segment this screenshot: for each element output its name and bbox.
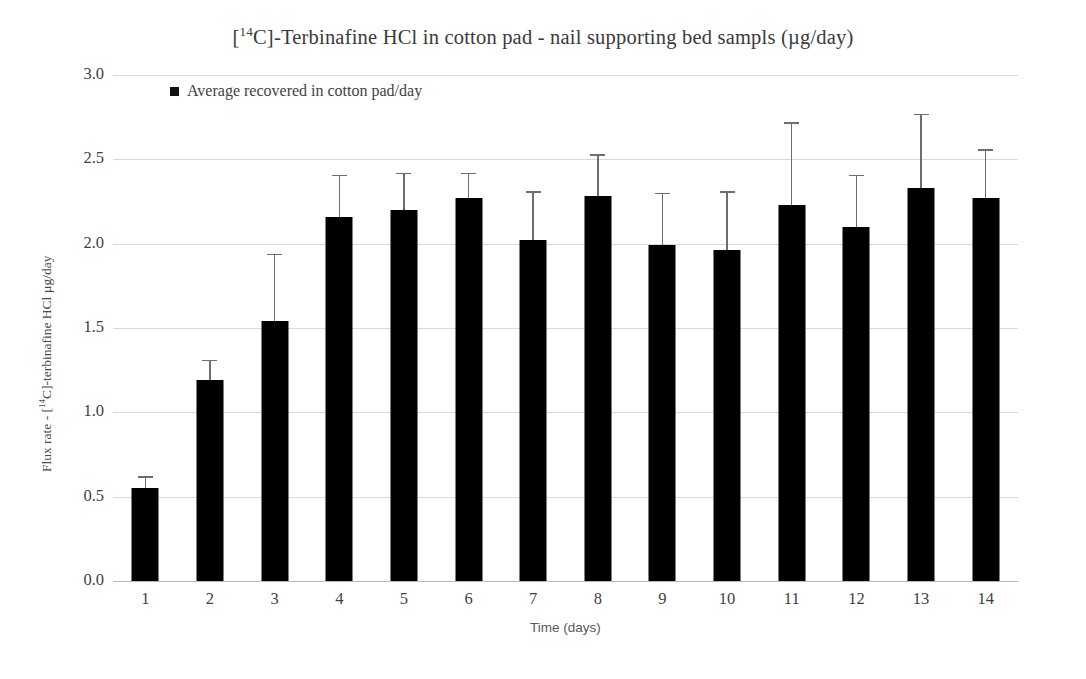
bar[interactable] (196, 380, 223, 581)
bar[interactable] (843, 227, 870, 581)
plot-area: 1234567891011121314 (113, 75, 1018, 582)
error-bar (662, 193, 663, 245)
bar[interactable] (455, 198, 482, 581)
x-axis-tick-label: 6 (439, 589, 499, 609)
bar[interactable] (390, 210, 417, 581)
bar-group[interactable] (178, 75, 243, 582)
y-axis-title-prefix: Flux rate - [ (39, 408, 54, 472)
x-axis-tick-label: 10 (697, 589, 757, 609)
x-axis-tick-label: 5 (374, 589, 434, 609)
error-bar-cap (655, 193, 670, 194)
bar[interactable] (520, 240, 547, 581)
y-axis-tick-label: 2.5 (58, 150, 104, 167)
bar-group[interactable] (630, 75, 695, 582)
error-bar-cap (332, 175, 347, 176)
bar[interactable] (261, 321, 288, 581)
x-axis-tick-label: 12 (826, 589, 886, 609)
bar[interactable] (649, 245, 676, 581)
bar-group[interactable] (242, 75, 307, 582)
chart-title-superscript: 14 (239, 24, 253, 39)
x-axis-tick-label: 4 (309, 589, 369, 609)
x-axis-tick-label: 9 (632, 589, 692, 609)
bar-group[interactable] (824, 75, 889, 582)
error-bar-cap (978, 149, 993, 150)
error-bar-cap (849, 175, 864, 176)
bar[interactable] (584, 196, 611, 581)
y-axis-title: Flux rate - [14C]-terbinafine HCl µg/day (37, 184, 55, 544)
bar[interactable] (132, 488, 159, 581)
bar-group[interactable] (372, 75, 437, 582)
bar[interactable] (326, 217, 353, 581)
error-bar-cap (267, 254, 282, 255)
bar-group[interactable] (113, 75, 178, 582)
bar-group[interactable] (953, 75, 1018, 582)
error-bar-cap (396, 173, 411, 174)
error-bar (532, 191, 533, 240)
error-bar (339, 175, 340, 217)
x-axis-tick-label: 7 (503, 589, 563, 609)
y-axis-tick-label: 0.5 (58, 488, 104, 505)
x-axis-tick-label: 11 (762, 589, 822, 609)
error-bar (920, 114, 921, 188)
error-bar (209, 360, 210, 380)
x-axis-tick-label: 3 (245, 589, 305, 609)
bar-group[interactable] (566, 75, 631, 582)
bar-chart: [14C]-Terbinafine HCl in cotton pad - na… (0, 0, 1086, 679)
error-bar (403, 173, 404, 210)
chart-title-suffix: C]-Terbinafine HCl in cotton pad - nail … (253, 26, 854, 48)
error-bar (856, 175, 857, 227)
error-bar (468, 173, 469, 198)
x-axis-tick-label: 8 (568, 589, 628, 609)
bar-group[interactable] (889, 75, 954, 582)
error-bar (597, 154, 598, 196)
error-bar-cap (526, 191, 541, 192)
bar[interactable] (908, 188, 935, 581)
chart-title: [14C]-Terbinafine HCl in cotton pad - na… (0, 24, 1086, 49)
error-bar (726, 191, 727, 250)
error-bar-cap (590, 154, 605, 155)
bar-group[interactable] (759, 75, 824, 582)
y-axis-tick-label: 1.0 (58, 403, 104, 420)
bar[interactable] (714, 250, 741, 581)
y-axis-title-suffix: C]-terbinafine HCl µg/day (39, 256, 54, 400)
bar-group[interactable] (695, 75, 760, 582)
bar-group[interactable] (501, 75, 566, 582)
bar-group[interactable] (307, 75, 372, 582)
error-bar-cap (784, 122, 799, 123)
bar[interactable] (972, 198, 999, 581)
bar-group[interactable] (436, 75, 501, 582)
x-axis-tick-label: 14 (956, 589, 1016, 609)
y-axis-tick-label: 2.0 (58, 235, 104, 252)
x-axis-title: Time (days) (113, 620, 1018, 635)
y-axis-title-superscript: 14 (37, 399, 47, 408)
page-margin (0, 648, 1086, 679)
error-bar-cap (720, 191, 735, 192)
y-axis-tick-label: 1.5 (58, 319, 104, 336)
y-axis-tick-label: 3.0 (58, 66, 104, 83)
error-bar-cap (914, 114, 929, 115)
error-bar (791, 122, 792, 205)
error-bar (274, 254, 275, 321)
error-bar-cap (202, 360, 217, 361)
y-axis-tick-label: 0.0 (58, 572, 104, 589)
x-axis-tick-label: 13 (891, 589, 951, 609)
error-bar-cap (138, 476, 153, 477)
error-bar-cap (461, 173, 476, 174)
x-axis-tick-label: 1 (115, 589, 175, 609)
bar[interactable] (778, 205, 805, 581)
error-bar (985, 149, 986, 198)
error-bar (145, 476, 146, 488)
x-axis-tick-label: 2 (180, 589, 240, 609)
